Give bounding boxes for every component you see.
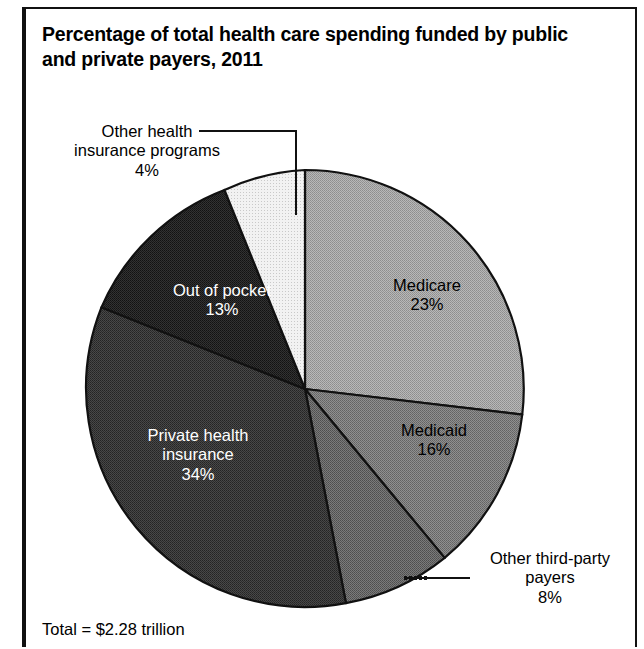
pie-label-other-third-party: Other third-party payers 8%	[466, 549, 634, 607]
pie-label-out-of-pocket-value: 13%	[160, 300, 284, 319]
pie-label-medicare-name: Medicare	[375, 276, 479, 295]
total-footnote: Total = $2.28 trillion	[42, 620, 185, 639]
pie-label-other-health-insurance-value: 4%	[42, 161, 252, 180]
pie-label-medicare: Medicare 23%	[375, 276, 479, 315]
pie-label-other-third-party-value: 8%	[466, 588, 634, 607]
pie-label-out-of-pocket-name: Out of pocket	[160, 281, 284, 300]
pie-label-medicare-value: 23%	[375, 295, 479, 314]
pie-label-medicaid: Medicaid 16%	[382, 421, 486, 460]
pie-label-other-health-insurance-line-2: insurance programs	[42, 141, 252, 160]
pie-label-out-of-pocket: Out of pocket 13%	[160, 281, 284, 320]
pie-label-private-health-insurance-line-1: Private health	[128, 426, 268, 445]
pie-label-other-health-insurance-line-1: Other health	[42, 122, 252, 141]
pie-label-other-health-insurance: Other health insurance programs 4%	[42, 122, 252, 180]
pie-label-medicaid-name: Medicaid	[382, 421, 486, 440]
pie-label-private-health-insurance-value: 34%	[128, 465, 268, 484]
pie-label-medicaid-value: 16%	[382, 440, 486, 459]
pie-label-other-third-party-line-1: Other third-party	[466, 549, 634, 568]
pie-label-other-third-party-line-2: payers	[466, 568, 634, 587]
pie-label-private-health-insurance: Private health insurance 34%	[128, 426, 268, 484]
pie-label-private-health-insurance-line-2: insurance	[128, 445, 268, 464]
